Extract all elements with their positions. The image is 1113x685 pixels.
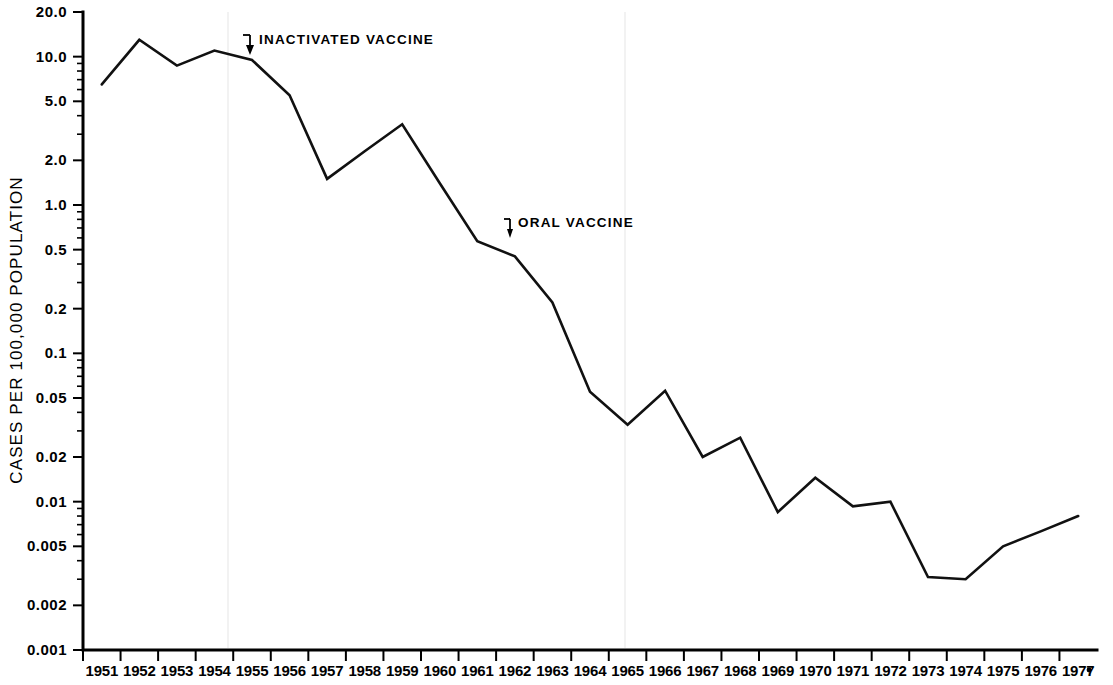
y-tick-label: 0.1 [45, 344, 67, 361]
y-tick-label: 0.01 [36, 493, 67, 510]
x-tick-label: 1961 [461, 662, 494, 679]
x-tick-label: 1973 [912, 662, 945, 679]
polio-incidence-chart: 20.010.05.02.01.00.50.20.10.050.020.010.… [0, 0, 1113, 685]
x-tick-label: 1964 [574, 662, 607, 679]
annotation-arrow-icon [246, 45, 254, 55]
x-tick-label: 1962 [499, 662, 532, 679]
y-tick-label: 0.2 [45, 300, 67, 317]
y-tick-label: 1.0 [45, 196, 67, 213]
axes [83, 12, 1097, 650]
x-tick-label: 1966 [649, 662, 682, 679]
x-tick-label: 1952 [123, 662, 156, 679]
annotation-label-inactivated-vaccine: INACTIVATED VACCINE [259, 32, 434, 47]
x-tick-label: 1969 [761, 662, 794, 679]
y-tick-label: 0.05 [36, 389, 67, 406]
y-tick-label: 10.0 [36, 48, 67, 65]
x-tick-label: 1967 [686, 662, 719, 679]
y-tick-label: 0.005 [27, 537, 67, 554]
x-tick-label: 1971 [837, 662, 870, 679]
annotation-arrow-icon [507, 229, 513, 238]
y-axis-title: CASES PER 100,000 POPULATION [7, 176, 26, 483]
data-series-line [102, 40, 1078, 579]
x-tick-label: 1956 [273, 662, 306, 679]
x-axis-ticks [83, 650, 1059, 661]
y-tick-label: 5.0 [45, 92, 67, 109]
x-tick-label: 1954 [198, 662, 231, 679]
x-tick-label: 1955 [236, 662, 269, 679]
y-tick-label: 0.5 [45, 241, 67, 258]
x-tick-label: 1975 [987, 662, 1020, 679]
y-tick-label: 0.001 [27, 641, 67, 658]
x-tick-label: 1965 [611, 662, 644, 679]
x-tick-label: 1970 [799, 662, 832, 679]
scan-artifacts [228, 12, 625, 648]
x-tick-label: 1963 [536, 662, 569, 679]
annotation-label-oral-vaccine: ORAL VACCINE [518, 215, 634, 230]
x-tick-label: 1951 [85, 662, 118, 679]
x-tick-label: 1960 [423, 662, 456, 679]
x-tick-label: 1972 [874, 662, 907, 679]
y-tick-label: 20.0 [36, 3, 67, 20]
annotation-oral-vaccine: ORAL VACCINE [504, 215, 634, 238]
x-tick-label: 1957 [311, 662, 344, 679]
x-tick-label: 1974 [949, 662, 982, 679]
annotation-inactivated-vaccine: INACTIVATED VACCINE [243, 32, 434, 55]
x-tick-label: 1958 [348, 662, 381, 679]
y-axis-tick-labels: 20.010.05.02.01.00.50.20.10.050.020.010.… [27, 3, 67, 658]
x-tick-label: 1959 [386, 662, 419, 679]
scan-speck [1087, 668, 1092, 673]
y-tick-label: 2.0 [45, 151, 67, 168]
x-tick-label: 1976 [1024, 662, 1057, 679]
chart-canvas: 20.010.05.02.01.00.50.20.10.050.020.010.… [0, 0, 1113, 685]
x-axis-tick-labels: 1951195219531954195519561957195819591960… [85, 662, 1094, 679]
x-tick-label: 1953 [161, 662, 194, 679]
y-tick-label: 0.02 [36, 448, 67, 465]
x-tick-label: 1968 [724, 662, 757, 679]
y-tick-label: 0.002 [27, 596, 67, 613]
